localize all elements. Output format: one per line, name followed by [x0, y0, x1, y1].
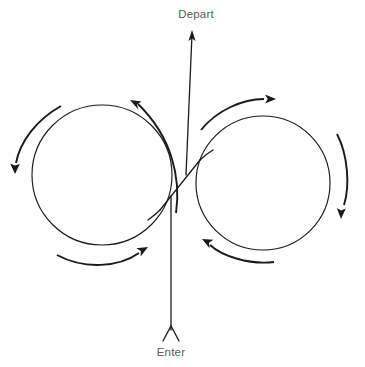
crossover-lower-stub	[148, 210, 160, 220]
left-side-arrowhead-icon	[10, 163, 20, 174]
right-roundabout-circle	[196, 116, 330, 250]
depart-label: Depart	[178, 8, 214, 20]
left-bottom-arc	[57, 253, 139, 265]
diagram-canvas: Depart Enter	[0, 0, 365, 367]
right-top-arrowhead-icon	[265, 95, 276, 104]
left-bottom-arrowhead-icon	[136, 247, 148, 257]
right-top-arc	[201, 99, 264, 130]
right-side-arc	[337, 134, 347, 205]
right-bottom-arc	[210, 245, 274, 263]
right-side-arrowhead-icon	[337, 208, 346, 219]
crossover-connector	[160, 160, 200, 210]
depart-road-line	[186, 34, 192, 175]
left-roundabout-circle	[32, 105, 172, 245]
enter-label: Enter	[157, 346, 186, 358]
left-side-arc	[16, 106, 61, 163]
roundabout-diagram: Depart Enter	[0, 0, 365, 367]
